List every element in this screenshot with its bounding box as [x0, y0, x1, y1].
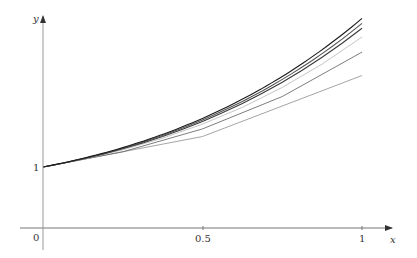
origin-label: 0 [33, 232, 39, 243]
series-line [43, 18, 362, 167]
series-line [43, 28, 362, 167]
series-line [43, 23, 362, 167]
x-tick-label-1: 1 [359, 233, 365, 244]
chart: y x 0 1 0.5 1 [0, 0, 417, 258]
x-axis-label: x [390, 234, 396, 245]
series-line [43, 37, 362, 167]
y-axis-label: y [32, 13, 39, 24]
x-tick-label-0.5: 0.5 [195, 233, 211, 244]
plot-curves [43, 18, 362, 167]
y-tick-label-1: 1 [33, 162, 39, 173]
series-line [43, 52, 362, 167]
